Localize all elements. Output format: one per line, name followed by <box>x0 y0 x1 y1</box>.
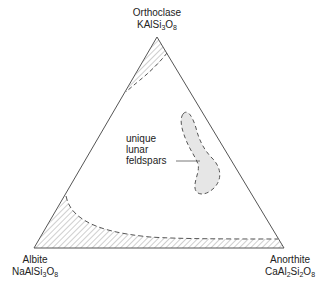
vertex-formula-anorthite: CaAl2Si2O8 <box>253 266 327 278</box>
vertex-name-orthoclase: Orthoclase <box>112 7 202 19</box>
vertex-name-albite: Albite <box>0 254 70 266</box>
vertex-label-albite: Albite NaAlSi3O8 <box>0 254 70 278</box>
vertex-formula-orthoclase: KAlSi3O8 <box>112 19 202 31</box>
orthoclase-field <box>126 37 167 92</box>
annotation-line-1: unique <box>126 133 167 144</box>
formula-part: O <box>303 266 311 277</box>
unique-lunar-feldspars-field <box>181 112 220 194</box>
annotation-line-3: feldspars <box>126 155 167 166</box>
formula-part: KAlSi <box>137 19 161 30</box>
formula-part: NaAlSi <box>12 266 43 277</box>
vertex-label-anorthite: Anorthite CaAl2Si2O8 <box>253 254 327 278</box>
formula-subscript: 8 <box>54 271 58 278</box>
formula-subscript: 8 <box>311 271 315 278</box>
vertex-label-orthoclase: Orthoclase KAlSi3O8 <box>112 7 202 31</box>
formula-part: O <box>46 266 54 277</box>
vertex-formula-albite: NaAlSi3O8 <box>0 266 70 278</box>
albite-anorthite-field <box>34 196 284 248</box>
formula-part: O <box>165 19 173 30</box>
vertex-name-anorthite: Anorthite <box>253 254 327 266</box>
annotation-unique-lunar-feldspars: unique lunar feldspars <box>126 133 167 166</box>
formula-part: CaAl <box>265 266 287 277</box>
formula-subscript: 8 <box>173 24 177 31</box>
annotation-line-2: lunar <box>126 144 167 155</box>
